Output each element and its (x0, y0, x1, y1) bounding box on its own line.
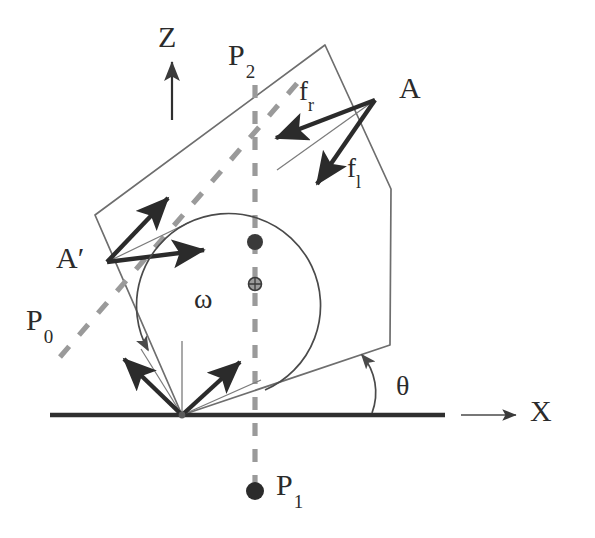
thin-ray-origin-up-right (182, 380, 261, 415)
origin-point-marker (179, 412, 186, 419)
vector-a-prime-upper (107, 198, 168, 262)
vector-origin-up-right (182, 362, 240, 415)
theta-angle-arc (362, 355, 376, 413)
force-fr-letter: f (299, 76, 308, 106)
point-p0-letter: P (26, 303, 43, 336)
force-fl-letter: f (347, 153, 356, 183)
z-axis-label: Z (158, 22, 176, 52)
point-a-prime-label: A′ (56, 243, 84, 273)
point-p1-subscript: 1 (294, 491, 304, 512)
point-a-label: A (399, 73, 421, 103)
point-p1-dot (246, 482, 264, 500)
diagram-vector-layer (0, 0, 595, 538)
theta-angle-label: θ (396, 372, 409, 400)
point-p2-subscript: 2 (246, 61, 256, 82)
force-fl-subscript: l (356, 172, 361, 192)
diagram-canvas: Z X A A′ P0 P1 P2 fr fl ω θ (0, 0, 595, 538)
vector-a-prime-right (107, 250, 204, 262)
point-p0-label: P0 (26, 305, 52, 340)
x-axis-label: X (530, 396, 552, 426)
center-of-mass-dot-upper (247, 234, 263, 250)
force-fr-subscript: r (308, 95, 314, 115)
point-p2-letter: P (228, 38, 245, 71)
omega-angle-arc (137, 214, 321, 390)
point-p0-subscript: 0 (44, 326, 54, 347)
point-p2-label: P2 (228, 40, 254, 75)
point-p1-label: P1 (276, 470, 302, 505)
force-fl-label: fl (347, 155, 361, 186)
point-p1-letter: P (276, 468, 293, 501)
omega-angle-label: ω (194, 285, 212, 313)
force-fr-label: fr (299, 78, 314, 109)
